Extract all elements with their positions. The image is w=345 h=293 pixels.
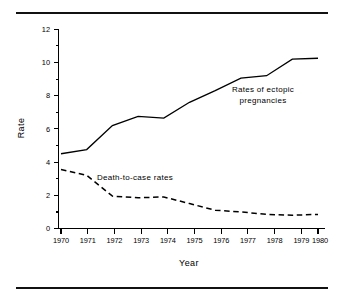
x-tick-label: 1972 — [106, 236, 122, 245]
y-tick-label: 12 — [42, 25, 50, 34]
y-tick-label: 10 — [42, 58, 50, 67]
y-axis-ticks — [54, 29, 59, 228]
line-chart-plot: 0 2 4 6 8 10 12 1970 1971 1972 — [0, 0, 345, 293]
annotation-death-to-case-line1: Death-to-case rates — [97, 173, 173, 182]
y-axis-tick-labels: 0 2 4 6 8 10 12 — [42, 25, 50, 233]
x-tick-label: 1974 — [160, 236, 176, 245]
annotation-death-to-case-rates: Death-to-case rates — [97, 173, 173, 182]
y-tick-label: 8 — [46, 91, 50, 100]
axis-frame — [59, 29, 326, 229]
x-tick-label: 1970 — [53, 236, 69, 245]
x-tick-label: 1973 — [133, 236, 149, 245]
y-tick-label: 0 — [46, 224, 50, 233]
y-tick-label: 2 — [46, 191, 50, 200]
x-axis-title: Year — [179, 258, 199, 268]
x-tick-label: 1980 — [312, 236, 328, 245]
y-axis-title: Rate — [16, 118, 26, 139]
annotation-ectopic-line2: pregnancies — [240, 96, 287, 105]
x-axis-ticks — [61, 229, 318, 234]
x-tick-label: 1971 — [80, 236, 96, 245]
x-tick-label: 1976 — [213, 236, 229, 245]
annotation-ectopic-pregnancies: Rates of ectopic pregnancies — [232, 85, 294, 105]
y-tick-label: 6 — [46, 125, 50, 134]
x-tick-label: 1978 — [267, 236, 283, 245]
annotation-ectopic-line1: Rates of ectopic — [232, 85, 294, 94]
x-tick-label: 1979 — [293, 236, 309, 245]
x-tick-label: 1975 — [187, 236, 203, 245]
figure-chart-ectopic-pregnancy-rates: 0 2 4 6 8 10 12 1970 1971 1972 — [0, 0, 345, 293]
y-tick-label: 4 — [46, 158, 50, 167]
bottom-divider-rule — [16, 287, 328, 289]
series-line-ectopic-pregnancy-rates — [61, 58, 318, 154]
x-tick-label: 1977 — [240, 236, 256, 245]
x-axis-tick-labels: 1970 1971 1972 1973 1974 1975 1976 1977 … — [53, 236, 328, 245]
